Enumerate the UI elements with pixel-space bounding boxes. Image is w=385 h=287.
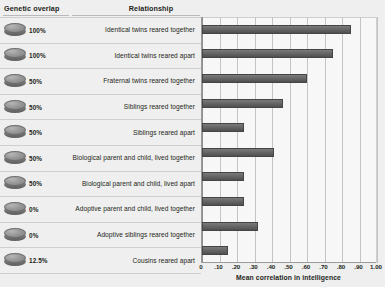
table-row: 0%Adoptive parent and child, lived toget… [0,197,201,223]
x-tick-label: .80 [337,263,346,270]
table-row: 100%Identical twins reared apart [0,44,201,70]
bar [202,222,258,231]
genetic-overlap-cell: 50% [0,151,70,166]
table-row: 0%Adoptive siblings reared together [0,223,201,249]
table-row: 50%Biological parent and child, lived ap… [0,172,201,198]
column-header-relationship: Relationship [102,4,200,13]
bar-slot [202,238,377,263]
bar [202,246,228,255]
bar-slot [202,17,377,42]
genetic-overlap-value: 100% [29,27,46,34]
relationship-label: Identical twins reared apart [70,52,201,60]
genetic-overlap-cell: 100% [0,23,70,38]
disc-icon [4,253,26,268]
bar-slot [202,115,377,140]
bar [202,49,333,58]
table-row: 100%Identical twins reared together [0,17,201,44]
table-row: 12.5%Cousins reared apart [0,248,201,274]
relationship-label: Identical twins reared together [70,26,201,34]
genetic-overlap-value: 0% [29,232,38,239]
disc-icon [4,23,26,38]
table-row: 50%Siblings reared together [0,95,201,121]
bar-slot [202,140,377,165]
genetic-overlap-cell: 0% [0,202,70,217]
genetic-overlap-cell: 0% [0,228,70,243]
header-divider-relationship [72,15,200,16]
x-axis-ticks: 0.10.20.30.40.50.60.70.80.901.00 [201,263,376,273]
bar-slot [202,189,377,214]
x-tick-label: .60 [302,263,311,270]
gridline [377,17,378,263]
bar-slot [202,214,377,239]
plot-area [201,17,377,263]
bar [202,148,274,157]
chart-figure: Genetic overlap Relationship 100%Identic… [0,0,385,287]
x-tick-label: .10 [214,263,223,270]
table-row: 50%Fraternal twins reared together [0,69,201,95]
genetic-overlap-value: 50% [29,78,42,85]
relationship-label: Adoptive siblings reared together [70,231,201,239]
disc-icon [4,151,26,166]
bar-slot [202,165,377,190]
bar [202,74,307,83]
relationship-label: Cousins reared apart [70,257,201,265]
bar-slot [202,42,377,67]
table-row: 50%Biological parent and child, lived to… [0,146,201,172]
header-divider-genetic [3,15,69,16]
relationship-label: Siblings reared together [70,103,201,111]
relationship-label: Siblings reared apart [70,129,201,137]
relationship-label: Biological parent and child, lived toget… [70,154,201,162]
x-axis-title: Mean correlation in intelligence [201,274,376,281]
disc-icon [4,228,26,243]
relationship-label: Fraternal twins reared together [70,77,201,85]
x-tick-label: .70 [319,263,328,270]
disc-icon [4,48,26,63]
genetic-overlap-cell: 50% [0,125,70,140]
bar [202,99,283,108]
genetic-overlap-value: 50% [29,129,42,136]
bar [202,123,244,132]
disc-icon [4,176,26,191]
relationship-label: Biological parent and child, lived apart [70,180,201,188]
genetic-overlap-value: 50% [29,104,42,111]
genetic-overlap-cell: 12.5% [0,253,70,268]
genetic-overlap-cell: 50% [0,74,70,89]
x-tick-label: .30 [249,263,258,270]
relationship-label: Adoptive parent and child, lived togethe… [70,205,201,213]
bar-slot [202,66,377,91]
x-tick-label: 0 [199,263,202,270]
disc-icon [4,74,26,89]
genetic-overlap-value: 50% [29,155,42,162]
x-tick-label: .90 [354,263,363,270]
x-tick-label: .20 [232,263,241,270]
genetic-overlap-cell: 100% [0,48,70,63]
bar [202,172,244,181]
disc-icon [4,202,26,217]
x-tick-label: .50 [284,263,293,270]
bar-slot [202,91,377,116]
x-tick-label: 1.00 [370,263,382,270]
column-header-genetic-overlap: Genetic overlap [4,4,59,13]
bar [202,25,351,34]
x-tick-label: .40 [267,263,276,270]
table-row: 50%Siblings reared apart [0,120,201,146]
genetic-overlap-value: 12.5% [29,257,48,264]
genetic-overlap-cell: 50% [0,100,70,115]
genetic-overlap-value: 50% [29,180,42,187]
disc-icon [4,125,26,140]
disc-icon [4,100,26,115]
bar [202,197,244,206]
table-body: 100%Identical twins reared together100%I… [0,17,201,274]
genetic-overlap-cell: 50% [0,176,70,191]
genetic-overlap-value: 100% [29,52,46,59]
genetic-overlap-value: 0% [29,206,38,213]
